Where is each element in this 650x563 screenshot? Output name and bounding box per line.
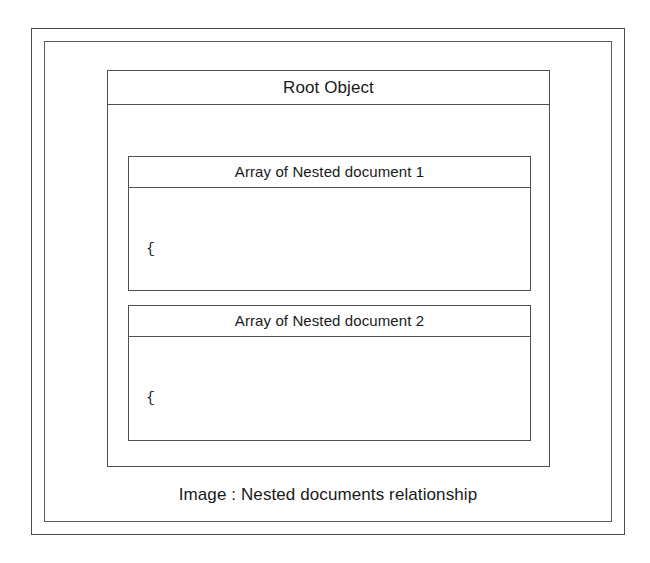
nested-document-body-1: { Properties of Nested documents } xyxy=(129,188,530,290)
figure-outer-frame: Root Object Array of Nested document 1 {… xyxy=(31,28,625,535)
nested-document-title-2: Array of Nested document 2 xyxy=(129,306,530,337)
nested-document-card-1: Array of Nested document 1 { Properties … xyxy=(128,156,531,291)
root-object-container: Root Object Array of Nested document 1 {… xyxy=(107,70,550,467)
figure-caption: Image : Nested documents relationship xyxy=(45,485,611,505)
code-line-open-brace: { xyxy=(146,388,530,409)
nested-document-card-2: Array of Nested document 2 { Properties … xyxy=(128,305,531,441)
nested-document-title-1: Array of Nested document 1 xyxy=(129,157,530,188)
nested-document-body-2: { Properties of Nested documents } xyxy=(129,337,530,440)
root-object-title: Root Object xyxy=(108,71,549,105)
figure-inner-frame: Root Object Array of Nested document 1 {… xyxy=(44,41,612,522)
root-object-body: Array of Nested document 1 { Properties … xyxy=(108,105,549,466)
code-line-open-brace: { xyxy=(146,239,530,260)
